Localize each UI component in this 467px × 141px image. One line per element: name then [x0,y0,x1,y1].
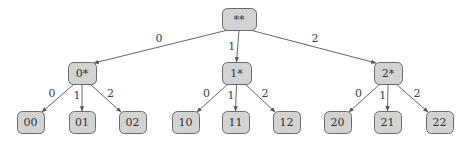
edge-n2-n22 [396,84,428,112]
node-label: 1* [230,67,243,80]
edge-label: 2 [414,87,421,100]
node-label: 11 [229,116,243,129]
edge-label: 2 [107,87,114,100]
node-label: 00 [24,116,38,129]
node-label: 12 [280,116,294,129]
edge-label: 1 [228,40,235,53]
edge-n0-n02 [90,84,121,112]
edge-n2-n20 [349,84,380,112]
tree-node-n2: 2* [375,63,403,85]
node-label: 01 [75,116,89,129]
node-label: 10 [179,116,193,129]
edge-label: 1 [228,89,235,102]
node-label: 0* [76,67,89,80]
edge-n2-n21 [388,84,389,111]
tree-node-n00: 00 [18,112,45,134]
tree-node-n21: 21 [375,112,402,134]
edge-label: 0 [49,87,56,100]
tree-node-n1: 1* [223,63,252,85]
node-label: 20 [331,116,345,129]
edge-root-n1 [237,30,240,62]
nodes: **0*1*2*000102101112202122 [18,9,454,134]
edge-n1-n11 [236,84,237,111]
edge-n1-n12 [245,84,275,112]
edge-label: 0 [203,87,210,100]
node-label: 02 [126,116,140,129]
tree-diagram: 012012012012 **0*1*2*000102101112202122 [0,0,467,141]
node-label: 2* [382,67,395,80]
tree-node-n0: 0* [69,63,97,85]
node-label: 22 [433,116,447,129]
edge-label: 1 [379,89,386,102]
edge-label: 0 [156,32,163,45]
edge-label: 0 [355,87,362,100]
edge-label: 2 [262,87,269,100]
node-label: ** [234,13,246,26]
tree-node-n02: 02 [120,112,147,134]
edge-n0-n00 [42,84,74,112]
tree-node-n20: 20 [325,112,352,134]
edge-n1-n10 [197,84,228,112]
tree-node-n11: 11 [223,112,250,134]
tree-node-n10: 10 [173,112,200,134]
tree-node-n01: 01 [70,112,96,134]
tree-node-n12: 12 [274,112,301,134]
edge-label: 1 [74,89,81,102]
node-label: 21 [381,116,395,129]
tree-node-root: ** [223,9,257,31]
tree-node-n22: 22 [427,112,454,134]
edge-label: 2 [312,32,319,45]
